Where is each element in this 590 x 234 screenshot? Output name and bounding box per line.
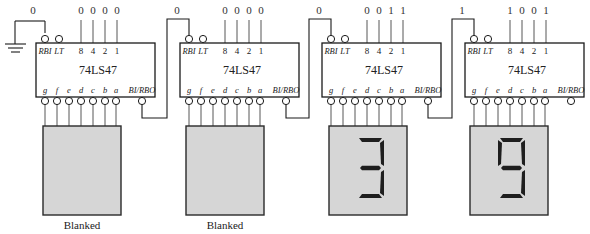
rbi-pin-label: RBI <box>181 46 196 56</box>
segment-pin-label: b <box>103 85 107 95</box>
rbi-pin <box>470 35 477 42</box>
segment-pin-label: g <box>187 85 191 95</box>
rbi-input-value: 1 <box>459 4 465 16</box>
segment-output-pin <box>197 97 204 104</box>
segment-pin-label: a <box>400 85 404 95</box>
segment-pin-label: c <box>377 85 381 95</box>
segment-output-pin <box>470 97 477 104</box>
bcd-pin-label: 4 <box>91 46 96 56</box>
segment-output-pin <box>339 97 346 104</box>
chip-name-label: 74LS47 <box>79 63 117 77</box>
bcd-input-value: 0 <box>222 4 228 16</box>
segment-output-pin <box>233 97 240 104</box>
lt-pin-label: LT <box>482 46 494 56</box>
rbi-pin-label: RBI <box>323 46 338 56</box>
segment-output-pin <box>530 97 537 104</box>
segment-output-pin <box>482 97 489 104</box>
segment-pin-label: g <box>329 85 333 95</box>
lt-pin <box>199 35 206 42</box>
rbi-input-value: 0 <box>316 4 322 16</box>
rbi-pin <box>41 35 48 42</box>
birbo-pin <box>138 97 145 104</box>
lt-pin <box>55 35 62 42</box>
birbo-pin <box>282 97 289 104</box>
decoder-stage-2: 00000RBILT842174LS47gfedcbaBI/RBOBlanked <box>174 4 331 231</box>
segment-output-pin <box>351 97 358 104</box>
seven-segment-display <box>186 126 264 215</box>
birbo-pin-label: BI/RBO <box>415 85 442 95</box>
birbo-pin-label: BI/RBO <box>129 85 156 95</box>
segment-pin-label: b <box>532 85 536 95</box>
segment-output-pin <box>363 97 370 104</box>
bcd-pin-label: 8 <box>79 46 84 56</box>
segment-output-pin <box>89 97 96 104</box>
lt-pin-label: LT <box>53 46 65 56</box>
segment-g <box>360 166 381 170</box>
bcd-input-value: 0 <box>234 4 240 16</box>
bcd-pin-label: 8 <box>508 46 513 56</box>
segment-output-pin <box>387 97 394 104</box>
decoder-stage-1: 00000RBILT842174LS47gfedcbaBI/RBOBlanked <box>30 4 189 231</box>
bcd-pin-label: 8 <box>365 46 370 56</box>
birbo-pin-label: BI/RBO <box>273 85 300 95</box>
segment-output-pin <box>375 97 382 104</box>
segment-d <box>359 194 382 198</box>
bcd-pin-label: 1 <box>259 46 264 56</box>
lt-pin <box>341 35 348 42</box>
bcd-input-value: 0 <box>531 4 537 16</box>
lt-pin-label: LT <box>197 46 209 56</box>
bcd-pin-label: 1 <box>115 46 120 56</box>
segment-output-pin <box>112 97 119 104</box>
segment-output-pin <box>185 97 192 104</box>
bcd-pin-label: 2 <box>532 46 537 56</box>
decoder-stage-4: 11001RBILT842174LS47gfedcbaBI/RBO <box>459 4 584 215</box>
segment-output-pin <box>77 97 84 104</box>
segment-pin-label: g <box>472 85 476 95</box>
bcd-input-value: 0 <box>258 4 264 16</box>
birbo-pin <box>424 97 431 104</box>
bcd-pin-label: 2 <box>389 46 394 56</box>
bcd-input-value: 0 <box>102 4 108 16</box>
lt-pin <box>484 35 491 42</box>
rbi-pin <box>327 35 334 42</box>
segment-pin-label: g <box>43 85 47 95</box>
segment-output-pin <box>41 97 48 104</box>
bcd-input-value: 0 <box>246 4 252 16</box>
segment-output-pin <box>221 97 228 104</box>
segment-output-pin <box>506 97 513 104</box>
bcd-input-value: 0 <box>114 4 120 16</box>
segment-output-pin <box>327 97 334 104</box>
segment-output-pin <box>209 97 216 104</box>
segment-output-pin <box>53 97 60 104</box>
bcd-input-value: 1 <box>400 4 406 16</box>
segment-pin-label: c <box>91 85 95 95</box>
bcd-pin-label: 4 <box>520 46 525 56</box>
bcd-pin-label: 2 <box>103 46 108 56</box>
bcd-pin-label: 8 <box>223 46 228 56</box>
rbi-input-value: 0 <box>174 4 180 16</box>
bcd-input-value: 0 <box>376 4 382 16</box>
lt-pin-label: LT <box>339 46 351 56</box>
segment-output-pin <box>101 97 108 104</box>
segment-pin-label: b <box>247 85 251 95</box>
segment-output-pin <box>518 97 525 104</box>
segment-pin-label: e <box>496 85 500 95</box>
segment-pin-label: e <box>353 85 357 95</box>
segment-a <box>359 138 382 142</box>
chip-name-label: 74LS47 <box>365 63 403 77</box>
birbo-pin-label: BI/RBO <box>558 85 585 95</box>
bcd-input-value: 0 <box>90 4 96 16</box>
bcd-input-value: 1 <box>507 4 513 16</box>
segment-pin-label: c <box>520 85 524 95</box>
segment-output-pin <box>494 97 501 104</box>
segment-pin-label: a <box>114 85 118 95</box>
segment-output-pin <box>245 97 252 104</box>
bcd-pin-label: 4 <box>377 46 382 56</box>
rbi-input-value: 0 <box>30 4 36 16</box>
bcd-input-value: 0 <box>519 4 525 16</box>
bcd-input-value: 1 <box>388 4 394 16</box>
segment-d <box>500 194 523 198</box>
birbo-pin <box>567 97 574 104</box>
decoder-stage-3: 00011RBILT842174LS47gfedcbaBI/RBO <box>316 4 474 215</box>
segment-pin-label: b <box>389 85 393 95</box>
